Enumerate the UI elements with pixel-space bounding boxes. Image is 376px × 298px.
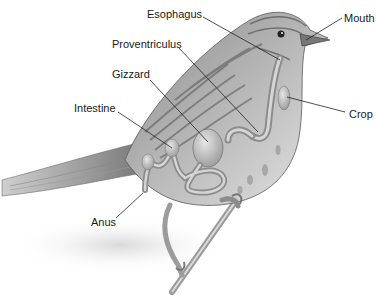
label-proventriculus: Proventriculus bbox=[112, 38, 182, 50]
crop-organ bbox=[278, 86, 290, 110]
bird-illustration bbox=[0, 0, 376, 298]
label-anus: Anus bbox=[91, 216, 116, 228]
label-gizzard: Gizzard bbox=[112, 68, 150, 80]
eye bbox=[278, 31, 285, 38]
label-crop: Crop bbox=[349, 108, 373, 120]
label-mouth: Mouth bbox=[344, 12, 375, 24]
label-intestine: Intestine bbox=[74, 102, 116, 114]
shadow bbox=[10, 217, 230, 273]
leader-line-anus bbox=[116, 193, 143, 218]
label-esophagus: Esophagus bbox=[147, 8, 202, 20]
gizzard-organ bbox=[193, 129, 223, 167]
bird-digestive-diagram: Esophagus Mouth Proventriculus Gizzard I… bbox=[0, 0, 376, 298]
